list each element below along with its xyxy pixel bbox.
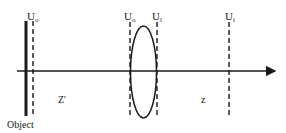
label-u-image-plane: Ui [225, 10, 235, 24]
label-distance-z: z [201, 94, 206, 105]
optical-diagram: Uo Uo Ul Ui Z' z Object [0, 0, 286, 133]
label-u-object-plane: Uo [27, 10, 39, 24]
label-object: Object [7, 119, 34, 130]
lens [131, 26, 157, 118]
label-u-lens-back: Ul [152, 10, 162, 24]
label-distance-z-prime: Z' [58, 94, 66, 105]
label-u-lens-front: Uo [124, 10, 136, 24]
